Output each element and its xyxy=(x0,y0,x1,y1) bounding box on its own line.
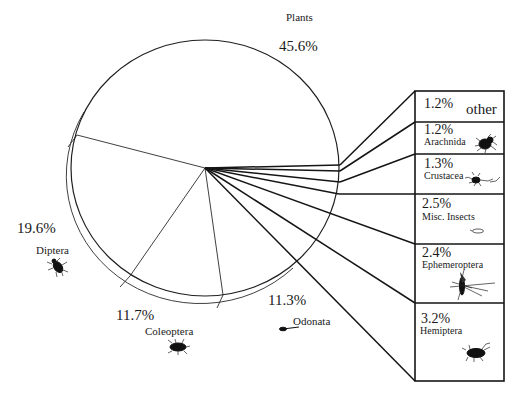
slice-diptera: 19.6% Diptera xyxy=(17,220,69,277)
slice-label: Plants xyxy=(286,11,313,23)
item-label: other xyxy=(466,101,497,117)
fly-icon xyxy=(47,258,68,277)
slice-percent: 45.6% xyxy=(279,38,318,54)
slice-percent: 19.6% xyxy=(17,220,56,236)
slice-label: Diptera xyxy=(36,244,69,256)
breakout-wedge-lines xyxy=(205,91,415,381)
item-percent: 1.3% xyxy=(424,156,454,171)
slice-label: Odonata xyxy=(293,315,330,327)
slice-label: Coleoptera xyxy=(145,325,193,337)
slice-plants: Plants 45.6% xyxy=(279,11,318,54)
item-percent: 1.2% xyxy=(424,122,454,137)
pie-chart-canvas: Plants 45.6% 19.6% Diptera 11.7% Coleopt… xyxy=(0,0,518,395)
item-percent: 2.4% xyxy=(422,245,452,260)
slice-percent: 11.3% xyxy=(268,292,306,308)
dragonfly-icon xyxy=(280,327,300,331)
slice-odonata: 11.3% Odonata xyxy=(268,292,330,331)
item-label: Crustacea xyxy=(424,170,464,181)
item-label: Misc. Insects xyxy=(422,211,475,222)
pie-wedge-lines xyxy=(77,135,223,295)
slice-coleoptera: 11.7% Coleoptera xyxy=(116,307,193,355)
slice-percent: 11.7% xyxy=(116,307,154,323)
item-label: Ephemeroptera xyxy=(422,259,484,270)
item-label: Hemiptera xyxy=(420,325,463,336)
beetle-icon xyxy=(168,339,190,355)
item-percent: 1.2% xyxy=(424,96,454,111)
item-percent: 3.2% xyxy=(421,311,451,326)
item-percent: 2.5% xyxy=(422,196,452,211)
item-label: Arachnida xyxy=(424,136,466,147)
pie-chart: Plants 45.6% 19.6% Diptera 11.7% Coleopt… xyxy=(0,0,518,395)
